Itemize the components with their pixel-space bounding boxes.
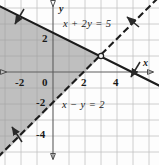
y-axis-label: y <box>59 4 63 14</box>
inequality-graph-figure: x + 2y = 5 x − y = 2 x y -2 0 2 4 2 -2 -… <box>0 0 159 165</box>
intersection-point <box>98 53 103 58</box>
equation-label-x-minus-y: x − y = 2 <box>62 100 105 111</box>
x-tick-label-0: 0 <box>42 77 48 88</box>
x-axis-label: x <box>143 58 148 68</box>
y-tick-label-2: 2 <box>42 33 48 44</box>
y-tick-label-minus-2: -2 <box>36 97 45 108</box>
x-tick-label-2: 2 <box>81 77 87 88</box>
equation-label-x-plus-2y: x + 2y = 5 <box>63 19 112 30</box>
x-tick-label-4: 4 <box>113 77 119 88</box>
y-tick-label-minus-4: -4 <box>36 129 45 140</box>
x-tick-label-minus-2: -2 <box>15 77 24 88</box>
